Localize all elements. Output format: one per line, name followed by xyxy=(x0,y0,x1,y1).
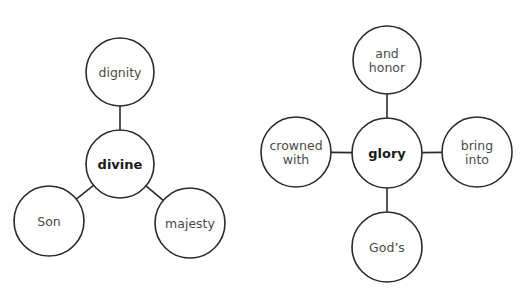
node-label-crowned-with-line-1: crowned xyxy=(269,138,322,153)
node-label-divine: divine xyxy=(98,157,143,172)
node-gods: God’s xyxy=(352,212,422,282)
node-label-and-honor-line-1: and xyxy=(375,46,399,61)
node-label-bring-into-line-1: bring xyxy=(461,138,493,153)
diagram-glory-web: gloryandhonorcrownedwithbringintoGod’s xyxy=(261,26,512,282)
node-and-honor: andhonor xyxy=(353,26,421,94)
node-label-and-honor-line-2: honor xyxy=(369,60,406,75)
edge-divine-son xyxy=(76,185,93,199)
node-son: Son xyxy=(14,186,84,256)
node-label-glory: glory xyxy=(368,146,406,161)
node-label-dignity: dignity xyxy=(98,65,142,80)
node-label-majesty: majesty xyxy=(165,216,215,231)
diagram-divine-web: divinedignitySonmajesty xyxy=(14,38,225,258)
node-divine: divine xyxy=(86,130,154,198)
node-crowned-with: crownedwith xyxy=(261,117,331,187)
node-label-bring-into-line-2: into xyxy=(465,152,489,167)
node-dignity: dignity xyxy=(86,38,154,106)
word-web-diagrams: divinedignitySonmajestygloryandhonorcrow… xyxy=(0,0,529,295)
node-majesty: majesty xyxy=(155,188,225,258)
node-label-crowned-with-line-2: with xyxy=(283,152,310,167)
node-glory: glory xyxy=(352,118,422,188)
edge-divine-majesty xyxy=(146,186,163,201)
node-bring-into: bringinto xyxy=(442,117,512,187)
node-label-son: Son xyxy=(37,214,61,229)
node-label-gods: God’s xyxy=(369,240,405,255)
